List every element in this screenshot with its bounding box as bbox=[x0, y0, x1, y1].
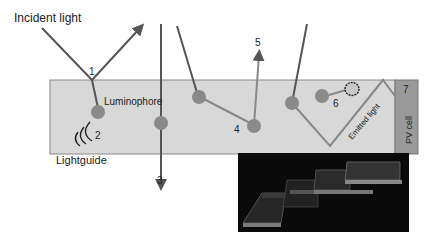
label-lightguide: Lightguide bbox=[56, 154, 107, 166]
number-6: 6 bbox=[333, 98, 339, 109]
number-7: 7 bbox=[403, 84, 409, 95]
luminophore-dot bbox=[247, 119, 261, 133]
luminophore-dot bbox=[154, 116, 168, 130]
luminophore-dot bbox=[285, 96, 299, 110]
lsc-diagram: Incident light Luminophore Lightguide Em… bbox=[0, 0, 433, 242]
number-4: 4 bbox=[234, 124, 240, 135]
luminophore-dot bbox=[192, 90, 206, 104]
number-2: 2 bbox=[95, 130, 101, 141]
lsc-photo bbox=[238, 153, 409, 232]
luminophore-dot bbox=[315, 89, 329, 103]
incident-ray bbox=[42, 28, 92, 80]
label-incident-light: Incident light bbox=[14, 11, 82, 25]
number-5: 5 bbox=[255, 37, 261, 48]
reflected-ray bbox=[92, 28, 140, 80]
number-3: 3 bbox=[157, 175, 163, 186]
label-pv-cell: PV cell bbox=[404, 116, 414, 144]
absorption-loss-6 bbox=[345, 83, 359, 96]
luminophore-dot bbox=[91, 105, 105, 119]
label-luminophore: Luminophore bbox=[104, 96, 163, 107]
number-1: 1 bbox=[89, 66, 95, 77]
